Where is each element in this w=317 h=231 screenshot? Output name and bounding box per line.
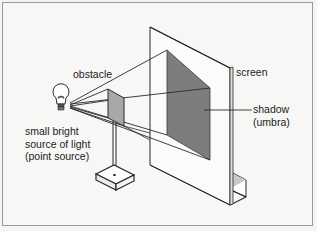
light-source-label-line3: (point source) [25, 150, 90, 163]
umbra-label: (umbra) [253, 116, 290, 128]
shadow-label: shadow [253, 103, 289, 115]
light-source-label-line2: source of light [25, 138, 90, 151]
light-source-label-line1: small bright [25, 125, 90, 138]
diagram-figure: obstacle screen shadow (umbra) small bri… [0, 0, 317, 231]
light-source-label: small bright source of light (point sour… [25, 125, 90, 163]
